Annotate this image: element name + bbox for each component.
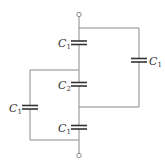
label-series-top: C1 [58, 37, 71, 51]
circuit-diagram: C1 C2 C1 C1 C1 [0, 0, 165, 164]
capacitor-parallel-right [131, 59, 147, 63]
capacitor-series-middle [71, 83, 87, 87]
capacitor-series-top [71, 41, 87, 45]
label-parallel-left: C1 [9, 102, 22, 116]
wires [30, 17, 139, 153]
label-series-middle: C2 [58, 79, 71, 93]
bottom-terminal [77, 153, 81, 157]
label-series-bottom: C1 [58, 122, 71, 136]
label-parallel-right: C1 [149, 55, 162, 69]
capacitor-series-bottom [71, 126, 87, 130]
capacitor-parallel-left [22, 106, 38, 110]
top-terminal [77, 12, 81, 16]
